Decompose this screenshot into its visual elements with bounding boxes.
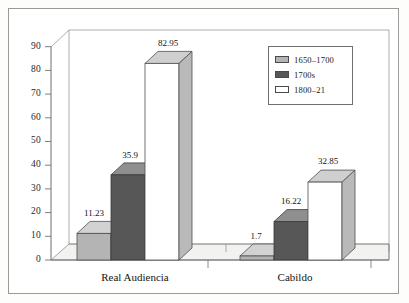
legend-swatch-1700s [275, 71, 289, 78]
legend-item-1800-21: 1800–21 [275, 82, 352, 97]
y-tick-label-50: 50 [19, 135, 41, 145]
legend-swatch-1650-1700 [275, 56, 289, 63]
y-tick-label-20: 20 [19, 206, 41, 216]
legend-label-1700s: 1700s [294, 70, 315, 80]
value-label-real-audiencia-1700s: 35.9 [110, 150, 150, 160]
x-category-label-cabildo: Cabildo [245, 271, 345, 283]
x-category-label-real-audiencia: Real Audiencia [75, 271, 195, 283]
value-label-cabildo-1650-1700: 1.7 [236, 231, 276, 241]
legend-swatch-1800-21 [275, 86, 289, 93]
value-label-cabildo-1800-21: 32.85 [305, 156, 351, 166]
legend-label-1650-1700: 1650–1700 [294, 55, 334, 65]
value-label-cabildo-1700s: 16.22 [270, 196, 312, 206]
y-tick-label-40: 40 [19, 159, 41, 169]
legend-item-1700s: 1700s [275, 67, 352, 82]
y-tick-label-70: 70 [19, 88, 41, 98]
legend-label-1800-21: 1800–21 [294, 85, 325, 95]
value-label-real-audiencia-1650-1700: 11.23 [74, 208, 114, 218]
legend-item-1650-1700: 1650–1700 [275, 52, 352, 67]
y-tick-label-60: 60 [19, 112, 41, 122]
y-tick-label-0: 0 [19, 254, 41, 264]
value-label-real-audiencia-1800-21: 82.95 [145, 38, 191, 48]
y-tick-label-10: 10 [19, 230, 41, 240]
y-tick-label-80: 80 [19, 64, 41, 74]
y-tick-label-90: 90 [19, 41, 41, 51]
y-axis [45, 30, 69, 260]
y-tick-label-30: 30 [19, 183, 41, 193]
bar-cabildo-1800-21 [308, 170, 355, 260]
bar-real-audiencia-1800-21 [145, 51, 192, 260]
chart-legend: 1650–1700 1700s 1800–21 [268, 46, 353, 105]
chart-figure: 0 10 20 30 40 50 60 70 80 90 11.23 35.9 … [0, 0, 409, 303]
